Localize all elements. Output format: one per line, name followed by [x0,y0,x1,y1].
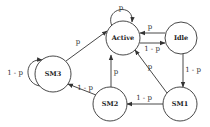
edge-sm2-to-sm3: 1 - p [68,84,96,95]
edge-label: p [148,63,153,71]
node-label: SM2 [102,100,118,108]
edge-label: 1 - p [144,45,160,53]
edge-idle-to-sm1: 1 - p [183,54,201,87]
edge-label: 1 - p [136,94,152,102]
edge-label: 1 - p [77,84,93,92]
node-label: SM1 [172,100,188,108]
edge-label: p [114,68,119,76]
edge-label: 1 - p [185,66,201,74]
edge-label: p [119,4,124,12]
edge-sm2-to-active: p [111,55,119,87]
edge-label: 1 - p [7,69,23,77]
node-label: SM3 [45,70,62,78]
edge-idle-to-active: p [140,23,165,33]
node-sm3: SM3 [35,56,71,92]
edge-sm3-to-active: p [66,31,107,61]
edge-label: p [76,38,81,46]
edge-label: p [148,23,153,31]
edge-sm1-to-active: p [135,50,167,93]
edge-active-to-idle: 1 - p [140,43,165,53]
node-sm2: SM2 [93,87,127,121]
node-sm1: SM1 [163,87,197,121]
node-idle: Idle [165,22,197,54]
node-label: Active [111,34,134,42]
edge-sm1-to-sm2: 1 - p [127,94,163,104]
node-label: Idle [174,34,188,42]
node-active: Active [106,21,140,55]
state-diagram: p p 1 - p 1 - p p 1 - p p [0,0,210,127]
